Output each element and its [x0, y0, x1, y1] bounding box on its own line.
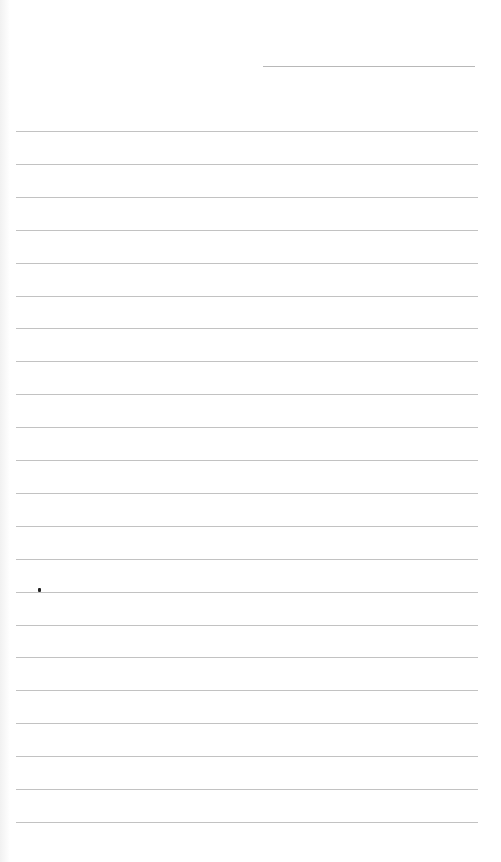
ruled-line: [16, 296, 478, 297]
ruled-line: [16, 263, 478, 264]
ruled-line: [16, 657, 478, 658]
ruled-line: [16, 526, 478, 527]
ruled-line: [16, 723, 478, 724]
page-edge-shadow: [0, 0, 10, 862]
ruled-line: [16, 822, 478, 823]
date-line: [263, 66, 475, 67]
ruled-line: [16, 460, 478, 461]
ruled-line: [16, 493, 478, 494]
ink-speck: [38, 588, 41, 592]
ruled-line: [16, 559, 478, 560]
ruled-line: [16, 756, 478, 757]
ruled-line: [16, 328, 478, 329]
ruled-line: [16, 625, 478, 626]
ruled-line: [16, 361, 478, 362]
ruled-line: [16, 394, 478, 395]
ruled-line: [16, 197, 478, 198]
ruled-line: [16, 690, 478, 691]
ruled-line: [16, 592, 478, 593]
ruled-line: [16, 427, 478, 428]
ruled-line: [16, 164, 478, 165]
ruled-line: [16, 131, 478, 132]
ruled-line: [16, 230, 478, 231]
ruled-line: [16, 789, 478, 790]
